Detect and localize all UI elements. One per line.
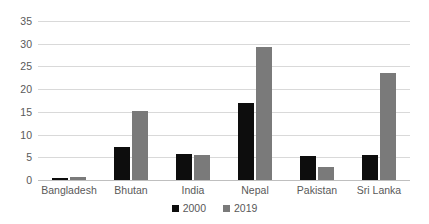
bar [256, 47, 272, 180]
bar [380, 73, 396, 180]
x-tick-label: Sri Lanka [357, 183, 401, 197]
legend-item[interactable]: 2000 [172, 203, 206, 214]
y-tick-label: 0 [26, 175, 32, 186]
bar [70, 177, 86, 180]
bar-group [286, 21, 348, 180]
legend-swatch-icon [172, 205, 179, 212]
y-tick-label: 20 [20, 84, 32, 95]
y-tick-label: 30 [20, 38, 32, 49]
legend-label: 2019 [234, 203, 257, 214]
bar [176, 154, 192, 180]
bar [132, 111, 148, 181]
y-tick-label: 5 [26, 152, 32, 163]
bar [114, 147, 130, 180]
legend-swatch-icon [223, 205, 230, 212]
bar [362, 155, 378, 180]
bar [318, 167, 334, 180]
y-axis: 05101520253035 [0, 21, 32, 180]
bar [52, 178, 68, 180]
y-tick-label: 35 [20, 16, 32, 27]
bar [300, 156, 316, 180]
legend-item[interactable]: 2019 [223, 203, 257, 214]
plot-area [38, 21, 410, 180]
y-tick-label: 15 [20, 107, 32, 118]
bar-group [224, 21, 286, 180]
x-tick-label: Pakistan [297, 183, 337, 197]
bar-group [38, 21, 100, 180]
x-tick-label: Nepal [241, 183, 268, 197]
bar-group [100, 21, 162, 180]
chart-legend: 20002019 [0, 203, 429, 214]
bar-chart: 05101520253035 BangladeshBhutanIndiaNepa… [0, 0, 429, 224]
legend-label: 2000 [183, 203, 206, 214]
y-tick-label: 25 [20, 61, 32, 72]
axis-baseline [38, 180, 410, 181]
x-axis: BangladeshBhutanIndiaNepalPakistanSri La… [38, 183, 410, 199]
bar-group [348, 21, 410, 180]
bar-group [162, 21, 224, 180]
y-tick-label: 10 [20, 129, 32, 140]
x-tick-label: Bangladesh [41, 183, 96, 197]
x-tick-label: Bhutan [114, 183, 147, 197]
x-tick-label: India [182, 183, 205, 197]
bar [194, 155, 210, 180]
bar [238, 103, 254, 180]
